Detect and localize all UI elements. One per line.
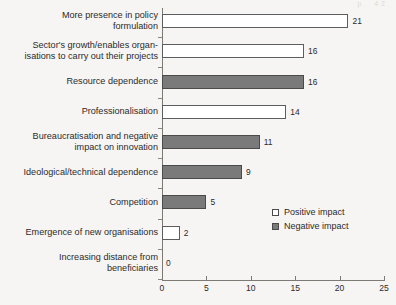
legend-item-negative: Negative impact	[272, 219, 349, 233]
legend-item-positive: Positive impact	[272, 205, 349, 219]
bar-row: Sector's growth/enables organ- isations …	[0, 38, 396, 68]
bar-value-label: 11	[264, 137, 273, 147]
bar-row: Increasing distance from beneficiaries0	[0, 250, 396, 280]
bar-negative	[162, 75, 304, 89]
bar-positive	[162, 226, 180, 240]
legend-swatch-positive-icon	[272, 209, 279, 216]
x-axis-tick-label: 25	[379, 283, 389, 293]
bar-value-label: 9	[246, 167, 251, 177]
category-label: Increasing distance from beneficiaries	[2, 252, 162, 274]
legend-label-positive: Positive impact	[284, 205, 345, 219]
chart-legend: Positive impact Negative impact	[272, 205, 349, 233]
legend-label-negative: Negative impact	[284, 219, 349, 233]
bar-row: Ideological/technical dependence9	[0, 159, 396, 189]
x-axis-tick-label: 20	[335, 283, 345, 293]
x-axis-tick-label: 0	[160, 283, 165, 293]
category-label: Competition	[2, 197, 162, 208]
bar-value-label: 16	[308, 77, 317, 87]
bar-positive	[162, 105, 286, 119]
bar-value-label: 5	[210, 197, 215, 207]
bar-container: 9	[162, 159, 396, 189]
bar-negative	[162, 195, 206, 209]
x-axis-tick-label: 5	[204, 283, 209, 293]
bar-negative	[162, 165, 242, 179]
category-label: More presence in policy formulation	[2, 10, 162, 32]
bar-value-label: 16	[308, 46, 317, 56]
x-axis-tick-label: 10	[246, 283, 256, 293]
bar-positive	[162, 14, 348, 28]
bar-container: 21	[162, 8, 396, 38]
bar-container: 0	[162, 250, 396, 280]
bar-value-label: 2	[184, 228, 189, 238]
legend-swatch-negative-icon	[272, 223, 279, 230]
category-label: Ideological/technical dependence	[2, 167, 162, 178]
bar-row: Resource dependence16	[0, 68, 396, 98]
category-label: Professionalisation	[2, 106, 162, 117]
bar-container: 16	[162, 68, 396, 98]
bar-row: Professionalisation14	[0, 99, 396, 129]
bar-row: More presence in policy formulation21	[0, 8, 396, 38]
bar-container: 16	[162, 38, 396, 68]
category-label: Bureaucratisation and negative impact on…	[2, 131, 162, 153]
x-axis-tick-label: 15	[290, 283, 300, 293]
bar-positive	[162, 44, 304, 58]
x-axis-line	[162, 280, 384, 281]
bar-row: Bureaucratisation and negative impact on…	[0, 129, 396, 159]
category-label: Emergence of new organisations	[2, 227, 162, 238]
category-label: Resource dependence	[2, 76, 162, 87]
horizontal-bar-chart: p. 42 0510152025 More presence in policy…	[0, 0, 396, 305]
bar-value-label: 14	[290, 107, 299, 117]
bar-value-label: 0	[166, 258, 171, 268]
bar-container: 14	[162, 99, 396, 129]
bar-value-label: 21	[352, 16, 361, 26]
category-label: Sector's growth/enables organ- isations …	[2, 40, 162, 62]
bar-container: 11	[162, 129, 396, 159]
bar-negative	[162, 135, 260, 149]
page-artifact-text: p. 42	[357, 0, 388, 7]
